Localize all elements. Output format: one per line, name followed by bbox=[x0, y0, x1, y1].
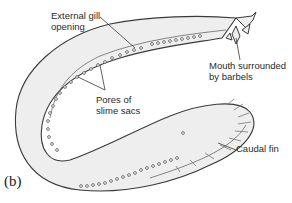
barbels bbox=[226, 12, 256, 44]
panel-label: (b) bbox=[4, 173, 22, 190]
label-pores-slime-sacs: Pores of slime sacs bbox=[96, 94, 140, 116]
hagfish-diagram: External gill opening Mouth surrounded b… bbox=[0, 0, 292, 203]
hagfish-body-illustration bbox=[0, 0, 292, 203]
label-external-gill-opening: External gill opening bbox=[51, 10, 100, 32]
label-caudal-fin: Caudal fin bbox=[236, 143, 279, 154]
label-mouth-barbels: Mouth surrounded by barbels bbox=[209, 60, 286, 82]
